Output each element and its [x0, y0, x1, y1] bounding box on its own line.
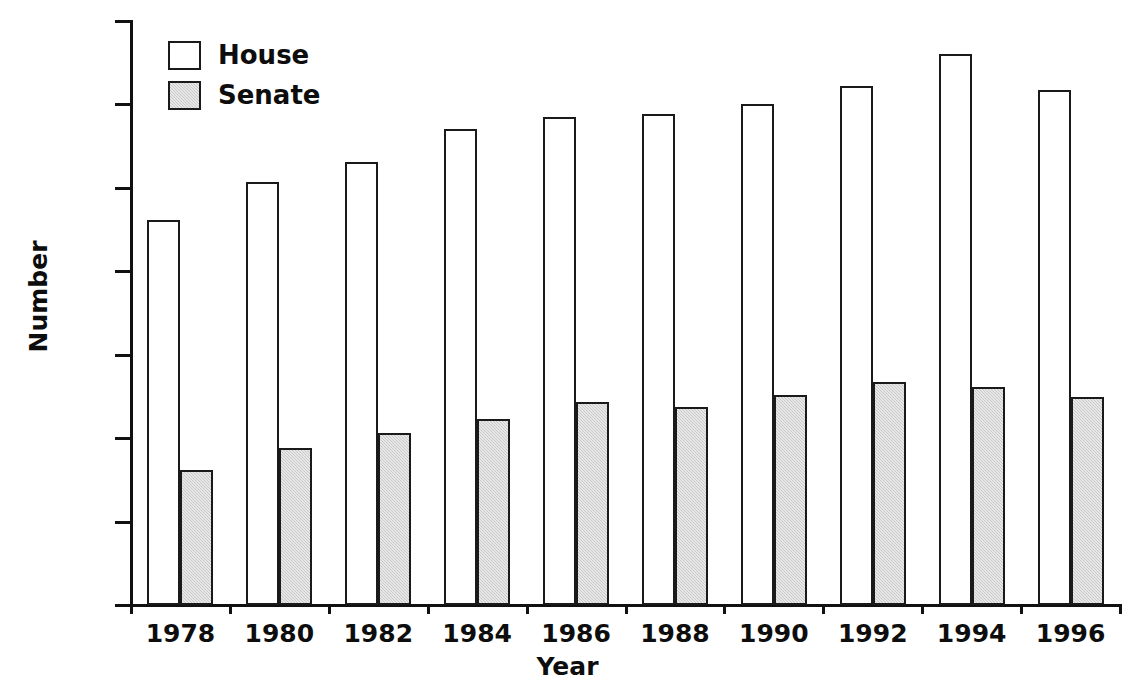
y-axis-title: Number [24, 227, 53, 367]
y-tick-0 [115, 604, 131, 607]
y-tick-2500 [115, 187, 131, 190]
bar-house-1982 [345, 162, 378, 605]
y-tick-3000 [115, 103, 131, 106]
bar-senate-1994 [972, 387, 1005, 605]
legend-label-house: House [218, 40, 309, 70]
y-tick-3500 [115, 20, 131, 23]
y-tick-2000 [115, 270, 131, 273]
x-tick-label-1990: 1990 [739, 619, 809, 648]
bar-senate-1996 [1071, 397, 1104, 605]
bar-house-1996 [1038, 90, 1071, 605]
bar-house-1984 [444, 129, 477, 605]
x-tick-9 [1020, 604, 1023, 614]
legend-label-senate: Senate [218, 80, 320, 110]
chart-legend: HouseSenate [168, 38, 320, 112]
x-tick-10 [1119, 604, 1122, 614]
x-tick-label-1996: 1996 [1036, 619, 1106, 648]
bar-house-1990 [741, 104, 774, 605]
bar-senate-1984 [477, 419, 510, 605]
legend-swatch-senate [168, 81, 201, 110]
bar-house-1988 [642, 114, 675, 605]
x-tick-6 [723, 604, 726, 614]
legend-item-house: House [168, 38, 320, 72]
x-tick-8 [921, 604, 924, 614]
x-tick-label-1984: 1984 [442, 619, 512, 648]
legend-swatch-house [168, 41, 201, 70]
bar-senate-1982 [378, 433, 411, 605]
x-tick-label-1992: 1992 [838, 619, 908, 648]
x-tick-7 [822, 604, 825, 614]
bar-senate-1990 [774, 395, 807, 605]
y-tick-1000 [115, 437, 131, 440]
bar-house-1992 [840, 86, 873, 605]
y-tick-1500 [115, 354, 131, 357]
bar-house-1980 [246, 182, 279, 605]
bar-senate-1986 [576, 402, 609, 605]
x-tick-0 [130, 604, 133, 614]
bar-house-1994 [939, 54, 972, 605]
x-tick-label-1980: 1980 [245, 619, 315, 648]
bar-house-1986 [543, 117, 576, 605]
x-tick-1 [229, 604, 232, 614]
x-tick-label-1978: 1978 [146, 619, 216, 648]
bar-house-1978 [147, 220, 180, 605]
bar-senate-1988 [675, 407, 708, 605]
x-tick-4 [526, 604, 529, 614]
y-tick-500 [115, 521, 131, 524]
legend-item-senate: Senate [168, 78, 320, 112]
x-tick-2 [328, 604, 331, 614]
bar-chart: Number 0500100015002000250030003500 1978… [0, 0, 1135, 691]
x-tick-label-1994: 1994 [937, 619, 1007, 648]
x-tick-label-1982: 1982 [343, 619, 413, 648]
x-tick-3 [427, 604, 430, 614]
bar-senate-1980 [279, 448, 312, 605]
x-tick-label-1986: 1986 [541, 619, 611, 648]
bar-senate-1992 [873, 382, 906, 605]
bar-senate-1978 [180, 470, 213, 605]
x-tick-5 [625, 604, 628, 614]
x-axis-title: Year [0, 652, 1135, 681]
x-tick-label-1988: 1988 [640, 619, 710, 648]
